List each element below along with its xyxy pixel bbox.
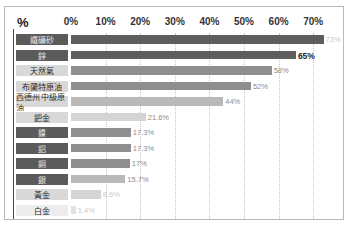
x-axis-tick-label: 50% [234,16,254,27]
bar-row[interactable]: 西德州中級原油44% [5,95,345,108]
x-axis-tick-label: 30% [165,16,185,27]
bar-category-label: 白金 [15,204,69,217]
bar-row[interactable]: 天然氣58% [5,64,345,77]
bar-value-label: 65% [298,51,315,61]
bar-row[interactable]: 鋅65% [5,49,345,62]
bar-row[interactable]: 鎳17.3% [5,126,345,139]
bar-category-label: 鎳 [15,126,69,139]
x-axis-tick-label: 10% [96,16,116,27]
x-axis-tick-label: 60% [269,16,289,27]
percent-symbol-label: % [17,15,29,30]
bar [71,113,146,122]
bar-value-label: 17% [132,159,147,168]
bar [71,97,223,106]
bar [71,175,125,184]
bar [71,51,296,60]
x-axis-tick-label: 20% [130,16,150,27]
bar-value-label: 8.6% [103,190,120,199]
bar-row[interactable]: 黃金8.6% [5,188,345,201]
bar [71,82,251,91]
bar-row[interactable]: 鋁17.3% [5,142,345,155]
bar-row[interactable]: 鈀金21.6% [5,111,345,124]
plot-area: 鐵礦砂73%鋅65%天然氣58%布蘭特原油52%西德州中級原油44%鈀金21.6… [5,33,345,219]
bar-value-label: 58% [274,66,289,75]
bar-category-label: 銅 [15,157,69,170]
bar-category-label: 鐵礦砂 [15,33,69,46]
bar-category-label: 天然氣 [15,64,69,77]
bar [71,35,324,44]
bar-category-label: 鋁 [15,142,69,155]
bar-value-label: 44% [225,97,240,106]
bar [71,66,272,75]
bar-category-label: 鋅 [15,49,69,62]
bar-row[interactable]: 鐵礦砂73% [5,33,345,46]
bar-category-label: 銀 [15,173,69,186]
bar [71,159,130,168]
bar-value-label: 52% [253,82,268,91]
bar-row[interactable]: 銅17% [5,157,345,170]
x-axis-header: % 0%10%20%30%40%50%60%70% [5,15,345,33]
bar-row[interactable]: 白金1.4% [5,204,345,217]
chart-frame: % 0%10%20%30%40%50%60%70% 鐵礦砂73%鋅65%天然氣5… [4,6,344,220]
x-axis-tick-label: 0% [64,16,78,27]
bar-category-label: 西德州中級原油 [15,95,69,108]
bar-value-label: 17.3% [133,128,154,137]
bar-category-label: 黃金 [15,188,69,201]
bar-row[interactable]: 銀15.7% [5,173,345,186]
bar [71,190,101,199]
bar-value-label: 73% [326,35,341,44]
bar-value-label: 15.7% [127,175,148,184]
x-axis-tick-label: 70% [303,16,323,27]
bar [71,206,76,215]
bar-value-label: 21.6% [148,113,169,122]
bar-value-label: 17.3% [133,144,154,153]
bar [71,144,131,153]
bar [71,128,131,137]
bar-value-label: 1.4% [78,206,95,215]
bar-category-label: 鈀金 [15,111,69,124]
x-axis-tick-label: 40% [199,16,219,27]
